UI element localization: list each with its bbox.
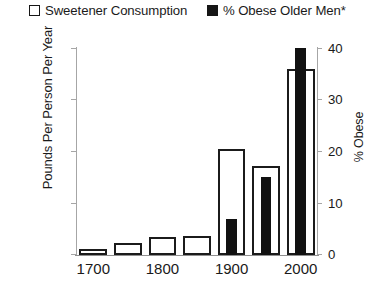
bar-sweetener-consumption-1750 (114, 243, 142, 255)
legend-label-sweetener-consumption: Sweetener Consumption (45, 4, 187, 17)
y-axis-right-title: % Obese (352, 67, 366, 207)
bar-group-1850 (183, 48, 211, 255)
x-axis-line (75, 255, 319, 256)
chart-figure: Sweetener Consumption % Obese Older Men*… (0, 0, 386, 299)
x-axis-label-2000: 2000 (271, 261, 331, 277)
bar-sweetener-consumption-1850 (183, 236, 211, 255)
plot-area: 0 40 80 120 160 0 10 20 30 40 (76, 48, 318, 255)
bar-percent-obese-older-men-1900 (226, 219, 237, 255)
bar-percent-obese-older-men-1950 (261, 177, 272, 255)
legend-item-percent-obese-older-men: % Obese Older Men* (207, 4, 346, 17)
y-axis-right-label-10: 10 (328, 197, 386, 210)
x-axis-tick-labels: 1700180019002000 (76, 261, 318, 287)
bar-group-1800 (149, 48, 177, 255)
bar-group-1900 (218, 48, 246, 255)
bar-group-2000 (287, 48, 315, 255)
bar-series-container (76, 48, 318, 255)
bar-sweetener-consumption-1800 (149, 237, 177, 255)
chart-legend: Sweetener Consumption % Obese Older Men* (0, 4, 386, 30)
bar-group-1700 (79, 48, 107, 255)
bar-group-1950 (252, 48, 280, 255)
y-axis-right-label-20: 20 (328, 145, 386, 158)
y-axis-right-label-40: 40 (328, 42, 386, 55)
x-axis-label-1800: 1800 (132, 261, 192, 277)
legend-label-percent-obese-older-men: % Obese Older Men* (223, 4, 346, 17)
y-axis-left-title: Pounds Per Person Per Year (40, 0, 55, 215)
hollow-square-icon (29, 5, 40, 16)
bar-group-1750 (114, 48, 142, 255)
bar-sweetener-consumption-1700 (79, 249, 107, 255)
y-axis-right-label-0: 0 (328, 248, 386, 261)
filled-square-icon (207, 5, 218, 16)
x-axis-label-1900: 1900 (202, 261, 262, 277)
bar-percent-obese-older-men-2000 (295, 48, 306, 255)
x-axis-label-1700: 1700 (63, 261, 123, 277)
y-axis-right-label-30: 30 (328, 93, 386, 106)
